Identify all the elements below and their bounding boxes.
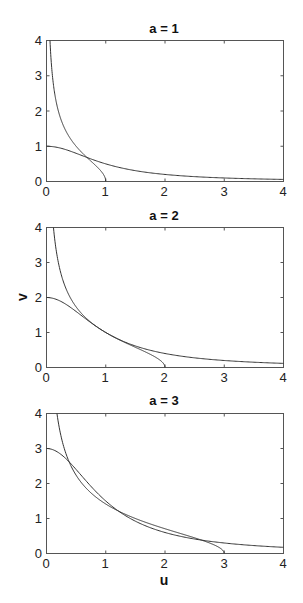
y-tick-2: 2 xyxy=(35,104,42,119)
x-tick-labels: 0 1 2 3 4 xyxy=(42,556,286,571)
x-tick-0: 0 xyxy=(42,556,49,571)
curve-sqrt xyxy=(57,414,224,554)
y-tick-4: 4 xyxy=(35,33,42,48)
x-axis-label: u xyxy=(160,572,169,588)
y-tick-0: 0 xyxy=(35,546,42,561)
y-tick-labels: 0 1 2 3 4 xyxy=(35,33,42,189)
y-tick-1: 1 xyxy=(35,325,42,340)
x-tick-1: 1 xyxy=(101,184,108,199)
x-tick-4: 4 xyxy=(279,556,286,571)
y-tick-0: 0 xyxy=(35,360,42,375)
panel-a2: a = 2 v 0 1 2 3 4 0 1 2 3 4 xyxy=(14,208,287,385)
x-tick-labels: 0 1 2 3 4 xyxy=(42,370,286,385)
plot-frame xyxy=(47,228,284,368)
panel-title: a = 1 xyxy=(149,21,178,36)
curve-lorentzian xyxy=(47,146,284,179)
y-tick-4: 4 xyxy=(35,406,42,421)
y-tick-0: 0 xyxy=(35,174,42,189)
panel-title: a = 3 xyxy=(149,393,178,408)
axis-ticks xyxy=(47,228,284,368)
x-tick-2: 2 xyxy=(160,370,167,385)
y-tick-4: 4 xyxy=(35,220,42,235)
curve-sqrt xyxy=(53,228,165,368)
panel-a1: a = 1 0 1 2 3 4 0 1 2 3 4 xyxy=(35,21,287,199)
y-tick-3: 3 xyxy=(35,68,42,83)
x-tick-4: 4 xyxy=(279,184,286,199)
y-axis-label: v xyxy=(14,293,30,301)
curve-sqrt xyxy=(50,41,106,182)
y-tick-1: 1 xyxy=(35,511,42,526)
x-tick-4: 4 xyxy=(279,370,286,385)
x-tick-3: 3 xyxy=(220,184,227,199)
x-tick-3: 3 xyxy=(220,370,227,385)
y-tick-labels: 0 1 2 3 4 xyxy=(35,406,42,561)
axis-ticks xyxy=(47,41,284,182)
curve-lorentzian xyxy=(47,298,284,364)
y-tick-1: 1 xyxy=(35,139,42,154)
plot-frame xyxy=(47,41,284,182)
y-tick-2: 2 xyxy=(35,290,42,305)
x-tick-0: 0 xyxy=(42,184,49,199)
x-tick-0: 0 xyxy=(42,370,49,385)
x-tick-2: 2 xyxy=(160,184,167,199)
y-tick-labels: 0 1 2 3 4 xyxy=(35,220,42,375)
y-tick-3: 3 xyxy=(35,255,42,270)
x-tick-labels: 0 1 2 3 4 xyxy=(42,184,286,199)
curve-lorentzian xyxy=(47,449,284,548)
x-tick-2: 2 xyxy=(160,556,167,571)
x-tick-3: 3 xyxy=(220,556,227,571)
y-tick-2: 2 xyxy=(35,476,42,491)
panel-title: a = 2 xyxy=(149,208,178,223)
figure: a = 1 0 1 2 3 4 0 1 2 3 4 a = 2 v 0 1 2 … xyxy=(0,0,303,603)
y-tick-3: 3 xyxy=(35,441,42,456)
panel-a3: a = 3 0 1 2 3 4 0 1 2 3 4 u xyxy=(35,393,287,588)
x-tick-1: 1 xyxy=(101,370,108,385)
x-tick-1: 1 xyxy=(101,556,108,571)
